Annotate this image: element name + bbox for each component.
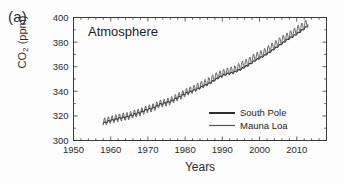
y-axis-tick-labels: 300320340360380400 [53,12,69,146]
legend-label-mauna-loa: Mauna Loa [240,120,288,131]
x-axis-ticks [74,18,327,141]
y-tick-label: 300 [53,135,69,146]
chart-canvas: 1950196019701980199020002010 30032034036… [0,0,344,185]
y-tick-label: 360 [53,61,69,72]
x-tick-label: 1990 [212,144,233,155]
legend-label-south-pole: South Pole [240,107,286,118]
x-axis-tick-labels: 1950196019701980199020002010 [63,144,307,155]
y-tick-label: 320 [53,110,69,121]
y-tick-label: 400 [53,12,69,23]
figure-panel-a: (a) CO2 (ppm) Atmosphere Years 195019601… [0,0,344,185]
axes-frame [74,18,327,141]
x-tick-label: 1980 [175,144,196,155]
chart-legend: South PoleMauna Loa [209,107,288,130]
y-tick-label: 340 [53,86,69,97]
x-tick-label: 1970 [137,144,158,155]
y-tick-label: 380 [53,37,69,48]
x-tick-label: 2000 [249,144,270,155]
x-tick-label: 1960 [100,144,121,155]
x-tick-label: 2010 [286,144,307,155]
y-axis-ticks [74,18,327,141]
